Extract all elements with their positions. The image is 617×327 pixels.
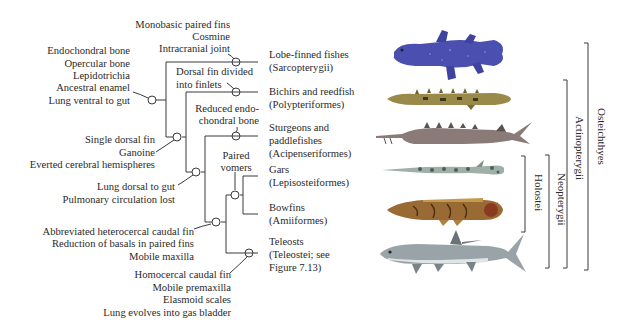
char-everted-hemispheres: Everted cerebral hemispheres (30, 158, 155, 171)
bichir-illustration (385, 87, 515, 111)
char-lung-dorsal: Lung dorsal to gut (97, 180, 175, 193)
taxon-lepisosteiformes-common: Gars (269, 163, 289, 176)
taxon-sarcopterygii-common: Lobe-finned fishes (269, 48, 349, 61)
taxon-polypteriformes-common: Bichirs and reedfish (269, 85, 354, 98)
taxon-acipenseriformes-common2: paddlefishes (269, 134, 322, 147)
gar-illustration (380, 158, 510, 182)
taxon-acipenseriformes-formal: (Acipenseriformes) (269, 147, 351, 160)
char-gas-bladder: Lung evolves into gas bladder (103, 306, 231, 319)
char-lung-ventral: Lung ventral to gut (49, 94, 131, 107)
char-ancestral-enamel: Ancestral enamel (56, 81, 130, 94)
char-homocercal: Homocercal caudal fin (135, 268, 231, 281)
char-into-finlets: into finlets (176, 78, 222, 91)
taxon-teleostei-formal: (Teleostei; see (269, 248, 330, 261)
tarpon-illustration (378, 228, 528, 278)
taxon-teleostei-formal2: Figure 7.13) (269, 261, 321, 274)
group-neopterygii: Neopterygii (556, 173, 568, 226)
taxon-acipenseriformes-common: Sturgeons and (269, 121, 329, 134)
char-intracranial-joint: Intracranial joint (159, 42, 230, 55)
char-reduction-basals: Reduction of basals in paired fins (52, 237, 194, 250)
taxon-teleostei-common: Teleosts (269, 235, 304, 248)
char-mobile-maxilla: Mobile maxilla (129, 250, 194, 263)
char-endochondral-bone: Endochondral bone (47, 44, 130, 57)
taxon-amiiformes-formal: (Amiiformes) (269, 214, 327, 227)
char-pulmonary-lost: Pulmonary circulation lost (63, 193, 175, 206)
group-actinopterygii: Actinopterygii (574, 116, 586, 180)
taxon-amiiformes-common: Bowfins (269, 201, 305, 214)
group-osteichthyes: Osteichthyes (596, 108, 608, 165)
sturgeon-illustration (374, 118, 534, 150)
char-single-dorsal-fin: Single dorsal fin (85, 133, 155, 146)
taxon-lepisosteiformes-formal: (Lepisosteiformes) (269, 176, 349, 189)
bowfin-illustration (383, 192, 508, 228)
char-vomers: vomers (213, 161, 259, 174)
taxon-polypteriformes-formal: (Polypteriformes) (269, 98, 344, 111)
char-elasmoid-scales: Elasmoid scales (163, 293, 231, 306)
char-chondral-bone: chondral bone (199, 114, 259, 127)
coelacanth-illustration (390, 28, 510, 86)
taxon-sarcopterygii-formal: (Sarcopterygii) (269, 61, 333, 74)
group-holostei: Holostei (533, 174, 545, 211)
char-dorsal-fin-divided: Dorsal fin divided (176, 65, 253, 78)
